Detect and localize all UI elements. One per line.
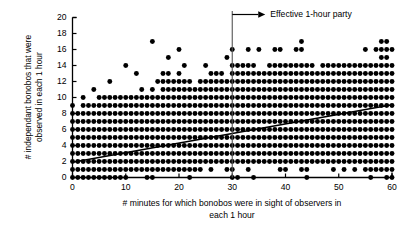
data-point — [315, 127, 320, 132]
data-point — [267, 103, 272, 108]
data-point — [267, 71, 272, 76]
data-point — [347, 103, 352, 108]
data-point — [150, 103, 155, 108]
data-point — [145, 151, 150, 156]
data-point — [283, 135, 288, 140]
data-point — [161, 87, 166, 92]
data-point — [193, 167, 198, 172]
data-point — [166, 167, 171, 172]
data-point — [134, 159, 139, 164]
data-point — [352, 143, 357, 148]
data-point — [102, 143, 107, 148]
data-point — [278, 63, 283, 68]
data-point — [118, 159, 123, 164]
data-point — [177, 127, 182, 132]
data-point — [288, 63, 293, 68]
data-point — [347, 87, 352, 92]
data-point — [166, 119, 171, 124]
data-point — [390, 71, 395, 76]
data-point — [235, 127, 240, 132]
data-point — [134, 135, 139, 140]
data-point — [384, 167, 389, 172]
data-point — [155, 167, 160, 172]
data-point — [171, 95, 176, 100]
data-point — [315, 87, 320, 92]
data-point — [288, 87, 293, 92]
data-point — [224, 79, 229, 84]
data-point — [342, 127, 347, 132]
data-point — [187, 167, 192, 172]
data-point — [358, 63, 363, 68]
data-point — [224, 127, 229, 132]
data-point — [310, 135, 315, 140]
data-point — [224, 55, 229, 60]
data-point — [203, 79, 208, 84]
data-point — [278, 95, 283, 100]
data-point — [294, 47, 299, 52]
data-point — [304, 95, 309, 100]
y-axis-label-line1: # independant bonobos that were — [23, 22, 33, 172]
data-point — [235, 95, 240, 100]
data-point — [70, 135, 75, 140]
data-point — [368, 111, 373, 116]
data-point — [304, 103, 309, 108]
data-point — [272, 119, 277, 124]
data-point — [219, 143, 224, 148]
data-point — [150, 111, 155, 116]
data-point — [81, 167, 86, 172]
data-point — [102, 159, 107, 164]
data-point — [177, 95, 182, 100]
data-point — [299, 71, 304, 76]
data-point — [379, 167, 384, 172]
data-point — [384, 47, 389, 52]
data-point — [187, 103, 192, 108]
data-point — [326, 127, 331, 132]
data-point — [358, 111, 363, 116]
data-point — [299, 103, 304, 108]
data-point — [171, 79, 176, 84]
data-point — [342, 63, 347, 68]
data-point — [219, 71, 224, 76]
data-point — [262, 79, 267, 84]
data-point — [107, 167, 112, 172]
y-tick-label-8: 8 — [51, 108, 67, 118]
data-point — [358, 127, 363, 132]
data-point — [299, 127, 304, 132]
data-point — [177, 167, 182, 172]
data-point — [315, 119, 320, 124]
x-axis-label-line1: # minutes for which bonobos were in sigh… — [123, 198, 342, 208]
data-point — [129, 143, 134, 148]
data-point — [70, 103, 75, 108]
data-point — [342, 95, 347, 100]
data-point — [177, 71, 182, 76]
data-point — [219, 79, 224, 84]
data-point — [187, 135, 192, 140]
data-point — [278, 119, 283, 124]
data-point — [203, 111, 208, 116]
data-point — [209, 159, 214, 164]
data-point — [177, 79, 182, 84]
data-point — [326, 103, 331, 108]
data-point — [187, 143, 192, 148]
data-point — [294, 127, 299, 132]
data-point — [310, 103, 315, 108]
data-point — [129, 95, 134, 100]
data-point — [171, 87, 176, 92]
data-point — [182, 127, 187, 132]
data-point — [347, 79, 352, 84]
data-point — [299, 167, 304, 172]
y-tick-label-10: 10 — [51, 92, 67, 102]
data-point — [336, 135, 341, 140]
data-point — [70, 127, 75, 132]
data-point — [283, 95, 288, 100]
data-point — [166, 127, 171, 132]
data-point — [374, 79, 379, 84]
data-point — [113, 111, 118, 116]
data-point — [283, 159, 288, 164]
data-point — [384, 111, 389, 116]
data-point — [315, 159, 320, 164]
data-point — [91, 175, 96, 180]
data-point — [336, 159, 341, 164]
data-point — [336, 79, 341, 84]
data-point — [374, 159, 379, 164]
